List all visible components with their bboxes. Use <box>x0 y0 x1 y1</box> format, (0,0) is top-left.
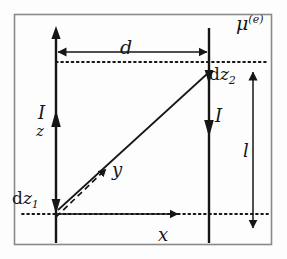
dz1-prefix: d <box>12 188 23 208</box>
figure-border <box>15 15 272 245</box>
permeability-symbol: μ <box>236 12 248 34</box>
dz1-element-marker <box>52 199 61 214</box>
right-current-label: I <box>215 107 222 125</box>
permeability-superscript: (e) <box>248 13 263 26</box>
separation-vector-line <box>58 74 207 210</box>
z-axis-label: z <box>36 124 44 139</box>
separation-label: d <box>120 38 132 57</box>
dz2-subscript: 2 <box>229 74 236 87</box>
length-label: l <box>243 142 249 160</box>
left-wire-top-arrowhead <box>51 26 60 39</box>
dz2-variable: z <box>220 64 229 84</box>
left-current-label: I <box>38 104 45 122</box>
left-wire-current-arrowhead <box>51 110 61 127</box>
dz1-variable: z <box>23 188 32 208</box>
dz2-label: dz2 <box>209 66 236 86</box>
dz1-subscript: 1 <box>32 198 39 211</box>
dz1-label: dz1 <box>12 190 39 210</box>
x-axis-label: x <box>158 226 168 244</box>
y-axis-label: y <box>112 161 122 179</box>
physics-diagram-figure: d μ(e) I z I l y x dz2 dz1 <box>0 0 287 259</box>
y-axis-dashed-line <box>56 169 106 217</box>
permeability-label: μ(e) <box>236 14 263 33</box>
dz2-prefix: d <box>209 64 220 84</box>
right-wire-current-arrowhead <box>204 120 214 137</box>
